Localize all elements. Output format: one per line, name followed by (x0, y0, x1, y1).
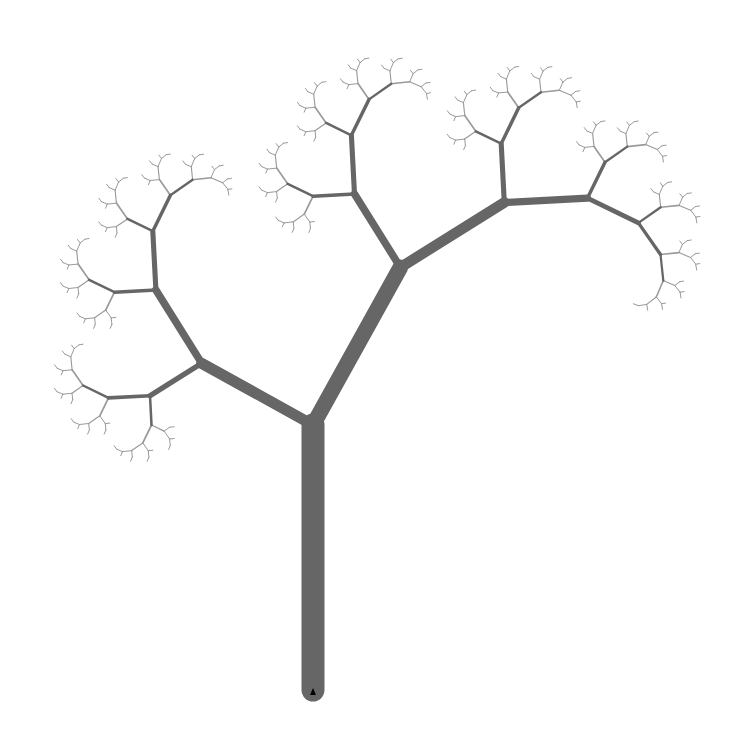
tree-branch (695, 206, 699, 207)
tree-branch (467, 91, 472, 95)
tree-branch (85, 239, 89, 240)
tree-branch (596, 122, 601, 126)
tree-branch (427, 93, 431, 94)
tree-branch (71, 349, 74, 357)
tree-branch (662, 303, 666, 304)
tree-branch (107, 227, 116, 228)
tree-branch (80, 239, 85, 243)
tree-branch (88, 430, 90, 434)
tree-branch (680, 281, 684, 282)
tree-branch (69, 264, 78, 265)
tree-branch (515, 67, 519, 68)
tree-branch (148, 451, 149, 458)
tree-branch (510, 67, 515, 71)
tree-branch (647, 133, 650, 136)
tree-branch (100, 416, 106, 424)
tree-branch (646, 145, 658, 150)
tree-branch (465, 139, 466, 146)
tree-branch (109, 188, 115, 191)
tree-branch (629, 122, 634, 126)
tree-branch (497, 93, 499, 97)
tree-branch (639, 304, 647, 305)
tree-branch (228, 189, 229, 195)
tree-branch (158, 167, 159, 180)
tree-branch (696, 217, 697, 223)
tree-branch (211, 170, 215, 178)
tree-branch (309, 228, 311, 232)
tree-branch (223, 179, 228, 183)
tree-branch (587, 131, 593, 133)
tree-branch (169, 445, 171, 449)
tree-branch (278, 220, 284, 223)
tree-branch (351, 99, 369, 135)
tree-branch (691, 207, 696, 211)
tree-branch (277, 192, 278, 199)
tree-branch (472, 90, 476, 91)
tree-branch (450, 114, 456, 117)
tree-branch (195, 155, 200, 159)
tree-branch (465, 131, 476, 139)
tree-branch (200, 154, 204, 155)
tree-branch (304, 132, 306, 136)
tree-branch (158, 158, 162, 166)
tree-branch (259, 187, 262, 190)
tree-branch (358, 84, 369, 100)
tree-branch (211, 178, 223, 183)
tree-branch (262, 190, 268, 193)
tree-branch (219, 165, 223, 166)
tree-branch (162, 155, 167, 159)
tree-branch (427, 94, 428, 100)
tree-branch (351, 135, 354, 194)
tree-branch (696, 264, 700, 265)
tree-branch (284, 222, 293, 223)
tree-branch (369, 84, 391, 100)
tree-branch (390, 71, 391, 84)
tree-branch (490, 87, 493, 90)
tree-branch (170, 439, 171, 445)
tree-branch (571, 95, 576, 102)
tree-branch (447, 134, 450, 137)
tree-branch (543, 67, 548, 71)
tree-branch (314, 86, 318, 94)
tree-branch (101, 225, 107, 227)
tree-branch (100, 398, 109, 416)
tree-branch (106, 292, 115, 310)
tree-branch (506, 79, 507, 92)
tree-branch (663, 156, 664, 162)
tree-branch (426, 82, 430, 83)
tree-branch (638, 207, 660, 223)
tree-branch (68, 245, 71, 248)
tree-branch (315, 131, 316, 138)
tree-branch (55, 388, 58, 391)
tree-branch (507, 68, 510, 71)
tree-branch (61, 371, 63, 375)
tree-branch (215, 166, 220, 170)
tree-branch (501, 77, 507, 80)
tree-branch (106, 310, 112, 318)
tree-branch (192, 155, 195, 158)
tree-branch (259, 163, 262, 166)
tree-branch (78, 288, 79, 295)
tree-branch (463, 103, 464, 116)
tree-branch (300, 106, 306, 109)
tree-branch (223, 183, 228, 190)
tree-branch (72, 345, 75, 348)
tree-branch (142, 175, 145, 178)
tree-branch (687, 240, 691, 241)
tree-branch (89, 416, 100, 424)
tree-branch (400, 203, 504, 268)
tree-branch (458, 100, 464, 102)
tree-branch (348, 65, 351, 68)
tree-branch (150, 161, 153, 164)
tree-branch (651, 189, 654, 192)
tree-branch (465, 116, 476, 132)
tree-branch (104, 430, 106, 434)
tree-branch (576, 102, 577, 108)
tree-branch (464, 91, 467, 94)
tree-branch (679, 205, 691, 210)
tree-branch (67, 265, 69, 269)
tree-branch (384, 68, 390, 71)
tree-branch (95, 310, 106, 318)
tree-branch (267, 192, 276, 193)
tree-branch (306, 107, 315, 108)
